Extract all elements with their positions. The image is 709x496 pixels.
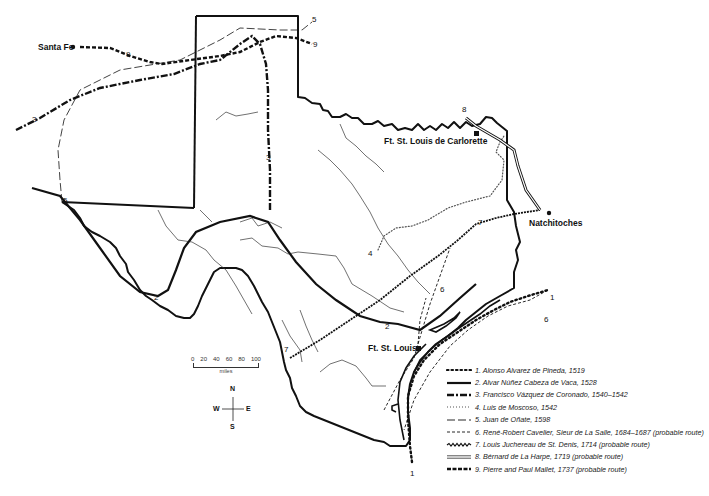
dash-dot-line-icon: [446, 391, 472, 399]
double-line-icon: [446, 453, 472, 461]
legend-item-1: 1. Alonso Alvarez de Pineda, 1519: [446, 364, 708, 376]
route-2-cabeza-de-vaca: [32, 188, 476, 330]
legend-item-7: 7. Louis Juchereau de St. Denis, 1714 (p…: [446, 438, 708, 450]
route-label-7: 7: [284, 345, 289, 354]
label-ft-carlorette: Ft. St. Louis de Carlorette: [384, 136, 488, 146]
route-4-moscoso: [378, 136, 504, 250]
route-label-2: 2: [154, 293, 159, 302]
route-label-9: 9: [126, 50, 131, 59]
label-santa-fe: Santa Fe: [38, 42, 74, 52]
long-dash-line-icon: [446, 416, 472, 424]
compass-e: E: [246, 405, 251, 412]
route-3-coronado: [16, 36, 270, 210]
label-natchitoches: Natchitoches: [529, 218, 583, 228]
route-label-6: 6: [544, 315, 549, 324]
legend-item-6: 6. René-Robert Cavelier, Sieur de La Sal…: [446, 426, 708, 438]
scale-ticks: 0 20 40 60 80 100: [191, 356, 261, 362]
route-label-1: 1: [410, 469, 415, 478]
legend-item-2: 2. Alvar Núñez Cabeza de Vaca, 1528: [446, 376, 708, 388]
route-label-7: 7: [478, 218, 483, 227]
zigzag-line-icon: [446, 441, 472, 449]
route-label-1: 1: [550, 293, 555, 302]
legend-item-5: 5. Juan de Oñate, 1598: [446, 414, 708, 426]
compass-w: W: [213, 405, 220, 412]
route-label-8: 8: [462, 105, 467, 114]
legend-item-4: 4. Luis de Moscoso, 1542: [446, 401, 708, 413]
route-label-5: 5: [312, 15, 317, 24]
compass-rose-icon: N S W E: [213, 385, 253, 433]
legend: 1. Alonso Alvarez de Pineda, 1519 2. Alv…: [446, 364, 708, 476]
route-label-6: 6: [440, 285, 445, 294]
compass-n: N: [230, 385, 235, 392]
scale-tick: 20: [200, 356, 207, 362]
scale-bar-graphic: [193, 363, 259, 368]
solid-line-icon: [446, 379, 472, 387]
route-label-5: 5: [63, 196, 68, 205]
legend-item-9: 9. Pierre and Paul Mallet, 1737 (probabl…: [446, 463, 708, 475]
route-7-st-denis: [290, 210, 540, 358]
route-label-3: 3: [32, 115, 37, 124]
legend-item-8: 8. Bérnard de La Harpe, 1719 (probable r…: [446, 451, 708, 463]
route-label-4: 4: [368, 249, 373, 258]
scale-bar: 0 20 40 60 80 100 miles: [191, 356, 261, 374]
compass-s: S: [230, 423, 235, 430]
ft-st-louis-marker: [416, 346, 421, 351]
route-label-2: 2: [385, 322, 390, 331]
dashed-bold-line-icon: [446, 465, 472, 473]
dotted-line-icon: [446, 366, 472, 374]
scale-tick: 60: [226, 356, 233, 362]
scale-units: miles: [191, 368, 261, 374]
short-dash-line-icon: [446, 428, 472, 436]
scale-tick: 40: [213, 356, 220, 362]
scale-tick: 100: [251, 356, 261, 362]
route-5-onate: [58, 22, 312, 202]
small-dot-line-icon: [446, 403, 472, 411]
scale-tick: 0: [191, 356, 194, 362]
route-label-3: 3: [266, 153, 271, 162]
natchitoches-marker: [547, 211, 551, 215]
label-ft-st-louis: Ft. St. Louis: [368, 343, 417, 353]
legend-item-3: 3. Francisco Vázquez de Coronado, 1540–1…: [446, 389, 708, 401]
scale-tick: 80: [238, 356, 245, 362]
route-label-9: 9: [313, 40, 318, 49]
